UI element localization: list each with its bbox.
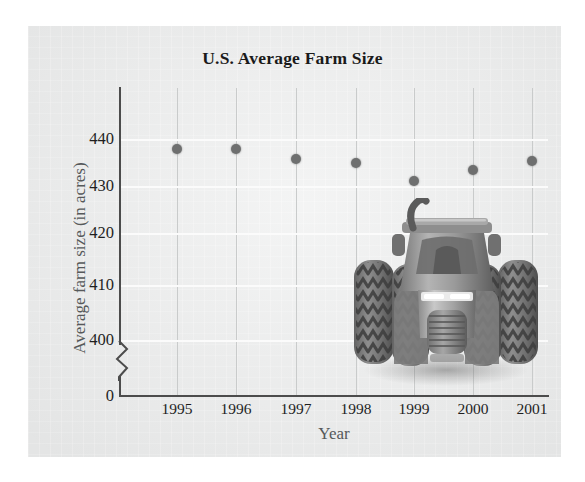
x-axis-tick-label: 1999	[399, 400, 430, 418]
x-axis-tick-label: 2000	[458, 400, 489, 418]
vertical-gridline	[236, 88, 237, 396]
axis-break-icon	[112, 341, 132, 381]
figure-page: U.S. Average Farm Size	[0, 0, 585, 482]
x-axis-tick-label: 1995	[162, 400, 193, 418]
x-axis-tick-label: 1996	[221, 400, 252, 418]
horizontal-gridline	[120, 139, 548, 141]
x-axis-line	[119, 395, 549, 397]
y-axis-title: Average farm size (in acres)	[70, 118, 90, 398]
data-point	[468, 165, 478, 175]
y-axis-line	[119, 87, 121, 345]
x-axis-tick-label: 1997	[281, 400, 312, 418]
plot-area	[120, 88, 548, 396]
data-point	[291, 154, 301, 164]
x-axis-tick-label: 1998	[341, 400, 372, 418]
vertical-gridline	[177, 88, 178, 396]
x-axis-title: Year	[120, 424, 548, 444]
data-point	[409, 176, 419, 186]
vertical-gridline	[296, 88, 297, 396]
data-point	[351, 158, 361, 168]
x-axis-tick-label: 2001	[517, 400, 548, 418]
horizontal-gridline	[120, 186, 548, 188]
tractor-icon	[348, 198, 544, 388]
data-point	[231, 144, 241, 154]
data-point	[527, 156, 537, 166]
data-point	[172, 144, 182, 154]
